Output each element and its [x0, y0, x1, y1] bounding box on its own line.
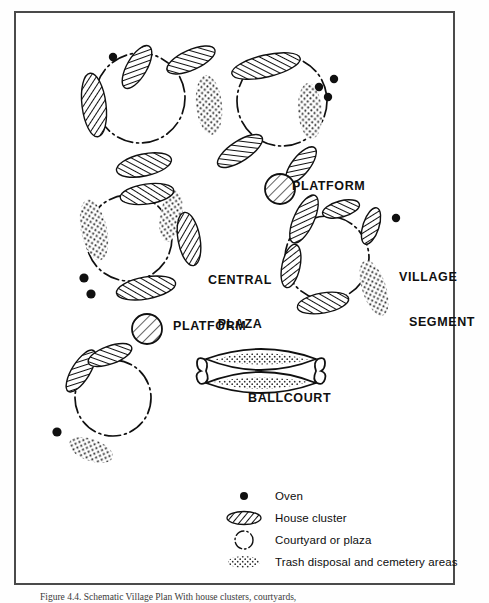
- village-segment-line-2: SEGMENT: [409, 315, 475, 330]
- oven-mid-left-1: [79, 273, 88, 282]
- house-cluster-ul-c: [163, 40, 219, 79]
- oven-dot-glyph: [221, 486, 267, 506]
- oven-upper-right-1: [315, 83, 323, 91]
- house-cluster-r-d: [358, 205, 385, 246]
- label-village-segment: VILLAGE SEGMENT: [399, 240, 475, 360]
- village-segment-line-1: VILLAGE: [399, 270, 475, 285]
- label-central-plaza: CENTRAL PLAZA: [208, 243, 272, 361]
- oven-upper-left: [109, 53, 117, 61]
- central-plaza-line-2: PLAZA: [208, 317, 272, 332]
- legend-item-house-cluster: House cluster: [221, 507, 461, 529]
- house-cluster-ul-a: [78, 72, 110, 138]
- label-platform-upper: PLATFORM: [292, 179, 365, 194]
- house-cluster-ul-d: [114, 148, 173, 181]
- oven-upper-right-3: [324, 93, 332, 101]
- platform-upper: [265, 174, 295, 204]
- central-plaza-line-1: CENTRAL: [208, 273, 272, 288]
- oven-upper-right-2: [330, 75, 338, 83]
- oven-lower-left: [52, 427, 61, 436]
- house-cluster-ur-b: [213, 128, 268, 173]
- figure-caption: Figure 4.4. Schematic Village Plan With …: [40, 592, 460, 602]
- trash-right: [354, 257, 395, 320]
- ballcourt-outline-east: [314, 358, 325, 384]
- courtyard-glyph: [221, 530, 267, 550]
- label-ballcourt: BALLCOURT: [248, 391, 331, 406]
- trash-lower-left: [66, 432, 117, 468]
- house-cluster-glyph: [221, 508, 267, 528]
- legend-label-house-cluster: House cluster: [275, 512, 347, 524]
- house-cluster-ll-b: [85, 339, 134, 372]
- platform-lower: [132, 314, 162, 344]
- house-cluster-r-b: [278, 243, 305, 290]
- ballcourt-outline: [197, 358, 208, 384]
- oven-right: [392, 214, 400, 222]
- trash-upper-center: [193, 74, 225, 136]
- figure-root: PLATFORM PLATFORM CENTRAL PLAZA VILLAGE …: [0, 0, 489, 603]
- legend-label-oven: Oven: [275, 490, 303, 502]
- legend-label-trash-area: Trash disposal and cemetery areas: [275, 556, 458, 568]
- legend: Oven House cluster Courtyard or plaza: [221, 485, 461, 573]
- legend-item-trash-area: Trash disposal and cemetery areas: [221, 551, 461, 573]
- house-cluster-ml-b: [115, 272, 178, 304]
- house-cluster-ul-b: [116, 41, 157, 93]
- trash-mid-left: [75, 197, 113, 263]
- legend-item-courtyard: Courtyard or plaza: [221, 529, 461, 551]
- plate-frame: PLATFORM PLATFORM CENTRAL PLAZA VILLAGE …: [14, 11, 455, 585]
- trash-area-glyph: [221, 552, 267, 572]
- legend-item-oven: Oven: [221, 485, 461, 507]
- legend-label-courtyard: Courtyard or plaza: [275, 534, 371, 546]
- house-cluster-ur-a: [229, 47, 302, 84]
- house-cluster-ml-a: [173, 211, 204, 268]
- house-cluster-r-c: [321, 196, 362, 221]
- oven-mid-left-2: [86, 289, 95, 298]
